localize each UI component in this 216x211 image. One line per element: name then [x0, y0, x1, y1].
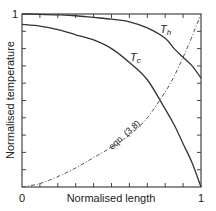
plot-frame	[22, 14, 201, 187]
eqn-label: eqn. (3.8)	[107, 118, 142, 151]
chart: 1 0 1 Normalised length Normalised tempe…	[0, 0, 216, 211]
x-min-label: 0	[19, 192, 25, 204]
th-label: Th	[160, 23, 172, 37]
y-axis-title: Normalised temperature	[4, 41, 16, 159]
eqn-curve	[22, 14, 201, 187]
tc-label: Tc	[130, 51, 141, 65]
y-max-label: 1	[12, 8, 18, 20]
x-max-label: 1	[198, 192, 204, 204]
x-axis-title: Normalised length	[67, 192, 156, 204]
th-curve	[22, 14, 201, 78]
axis-ticks	[22, 14, 201, 187]
